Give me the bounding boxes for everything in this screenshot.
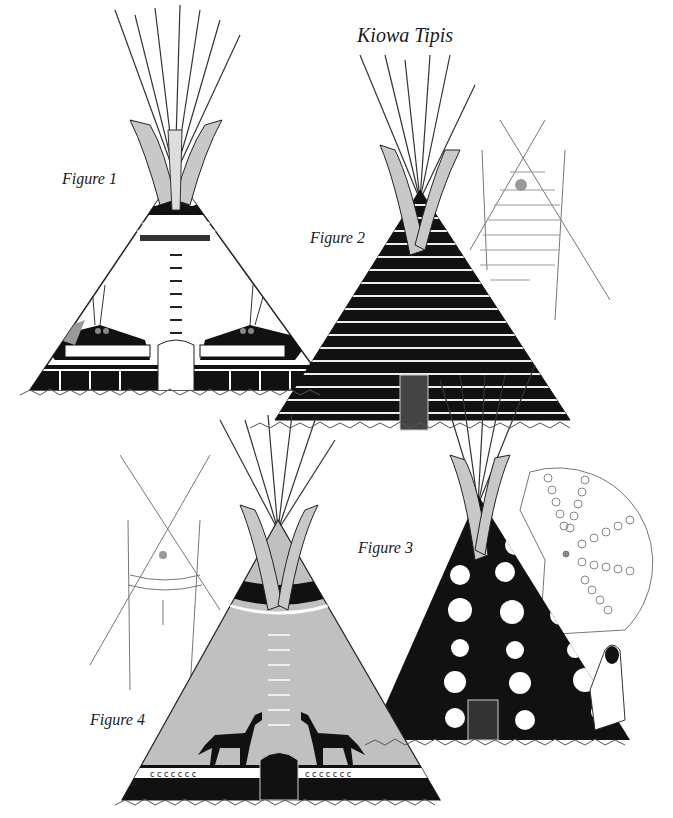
figure-4-label: Figure 4 (90, 711, 145, 729)
svg-text:c c c c c c c: c c c c c c c (150, 770, 196, 779)
seated-person (590, 645, 625, 730)
figure-4-side-diagram (90, 455, 220, 690)
figure-2-label: Figure 2 (310, 229, 365, 247)
page-title: Kiowa Tipis (357, 24, 453, 47)
figure-1-label: Figure 1 (62, 170, 117, 188)
svg-text:c c c c c c c: c c c c c c c (305, 770, 351, 779)
kiowa-tipis-illustration: c c c c c c c c c c c c c c (0, 0, 673, 818)
tipi-figure-4: c c c c c c c c c c c c c c (100, 415, 460, 805)
figure-2-side-diagram (470, 120, 610, 320)
figure-3-label: Figure 3 (358, 539, 413, 557)
